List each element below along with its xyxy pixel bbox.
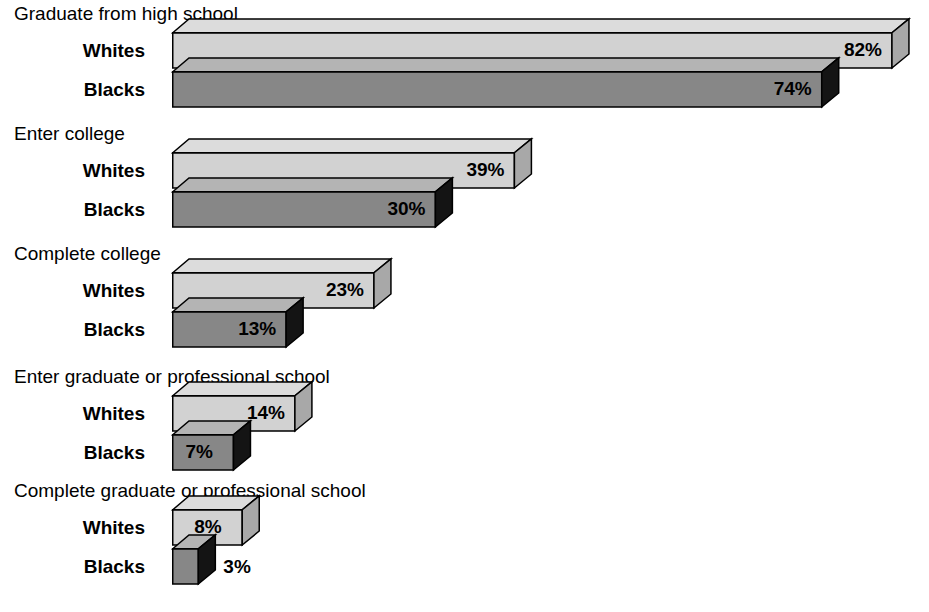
value-label: 30%	[387, 199, 425, 218]
value-label: 3%	[223, 557, 250, 576]
bar-top-face	[173, 58, 839, 72]
value-label: 7%	[185, 442, 212, 461]
bar-top-face	[173, 298, 303, 312]
series-label-blacks: Blacks	[0, 80, 145, 99]
series-label-whites: Whites	[0, 404, 145, 423]
bar-front-face	[173, 72, 822, 107]
value-label: 23%	[326, 280, 364, 299]
value-label: 13%	[238, 319, 276, 338]
series-label-whites: Whites	[0, 161, 145, 180]
value-label: 39%	[466, 160, 504, 179]
bar-top-face	[173, 259, 391, 273]
bar-blacks[interactable]	[172, 57, 842, 110]
value-label: 74%	[774, 79, 812, 98]
series-label-blacks: Blacks	[0, 200, 145, 219]
series-label-blacks: Blacks	[0, 443, 145, 462]
bar-top-face	[173, 382, 312, 396]
series-label-blacks: Blacks	[0, 320, 145, 339]
bar-top-face	[173, 19, 909, 33]
bar-top-face	[173, 139, 532, 153]
value-label: 82%	[844, 40, 882, 59]
group-label: Complete college	[14, 244, 161, 263]
series-label-whites: Whites	[0, 41, 145, 60]
series-label-blacks: Blacks	[0, 557, 145, 576]
bar-top-face	[173, 178, 453, 192]
group-label: Enter college	[14, 124, 125, 143]
series-label-whites: Whites	[0, 518, 145, 537]
bar-blacks[interactable]	[172, 534, 218, 587]
series-label-whites: Whites	[0, 281, 145, 300]
bar-chart: Graduate from high schoolWhites82%Blacks…	[0, 0, 929, 612]
bar-front-face	[173, 549, 199, 584]
